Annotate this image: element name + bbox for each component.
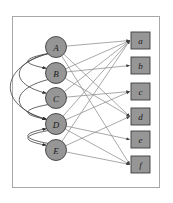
bipartite-edge-group: [62, 41, 130, 165]
graph-canvas: ABCDE abcdef: [0, 0, 173, 203]
right-node-group: abcdef: [131, 32, 150, 173]
node-circle-a[interactable]: A: [46, 37, 67, 58]
node-circle-d[interactable]: D: [46, 114, 67, 135]
graph-edge-b-d: [65, 78, 130, 116]
node-square-shape-e: [131, 131, 150, 148]
graph-arc-a-b: [28, 54, 49, 69]
figure-root: ABCDE abcdef: [0, 0, 173, 203]
node-circle-e[interactable]: E: [46, 140, 67, 161]
graph-edge-d-c: [66, 92, 130, 120]
graph-edge-e-d: [66, 117, 130, 146]
graph-edge-c-a: [64, 41, 129, 92]
node-circle-c[interactable]: C: [46, 88, 67, 109]
node-circle-b[interactable]: B: [46, 63, 67, 84]
node-square-a[interactable]: a: [131, 32, 150, 49]
node-square-shape-b: [131, 57, 150, 74]
node-circle-shape-b: [46, 63, 67, 84]
graph-arc-a-c: [19, 54, 48, 94]
graph-edge-d-e: [66, 126, 130, 139]
left-node-group: ABCDE: [46, 37, 67, 161]
node-square-shape-d: [131, 108, 150, 125]
node-square-shape-a: [131, 32, 150, 49]
graph-edge-d-f: [65, 129, 130, 165]
node-square-f[interactable]: f: [131, 156, 150, 173]
graph-arc-b-d: [19, 80, 48, 120]
graph-edge-e-f: [66, 152, 129, 165]
self-arc-edge-group: [10, 54, 48, 146]
node-square-shape-c: [131, 83, 150, 100]
node-circle-shape-d: [46, 114, 67, 135]
node-square-d[interactable]: d: [131, 108, 150, 125]
graph-edge-d-a: [63, 41, 130, 117]
graph-edge-c-c: [66, 92, 129, 98]
node-circle-shape-c: [46, 88, 67, 109]
node-square-b[interactable]: b: [131, 57, 150, 74]
node-circle-shape-a: [46, 37, 67, 58]
node-square-e[interactable]: e: [131, 131, 150, 148]
graph-edge-a-a: [66, 41, 129, 47]
graph-edge-b-b: [66, 66, 129, 72]
node-square-shape-f: [131, 156, 150, 173]
node-circle-shape-e: [46, 140, 67, 161]
graph-edge-a-d: [64, 54, 130, 116]
node-square-c[interactable]: c: [131, 83, 150, 100]
